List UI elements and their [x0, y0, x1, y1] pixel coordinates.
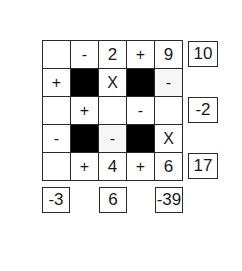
row-result-0: 10 — [188, 41, 218, 67]
operator-r1-c0: + — [43, 69, 71, 97]
number-r0-c4: 9 — [155, 41, 183, 69]
operator-r4-c1: + — [71, 153, 99, 181]
number-r0-c2: 2 — [99, 41, 127, 69]
operator-r1-c2: X — [99, 69, 127, 97]
col-result-2: 6 — [99, 187, 127, 213]
cell-r0-c0[interactable] — [43, 41, 71, 69]
operator-r3-c4: X — [155, 125, 183, 153]
cell-r4-c0[interactable] — [43, 153, 71, 181]
operator-r3-c2: - — [99, 125, 127, 153]
blocked-cell-r3-c3 — [127, 125, 155, 153]
operator-r0-c3: + — [127, 41, 155, 69]
col-result-4: -39 — [155, 187, 183, 213]
number-r4-c4: 6 — [155, 153, 183, 181]
cell-r2-c0[interactable] — [43, 97, 71, 125]
operator-r1-c4: - — [155, 69, 183, 97]
operator-r3-c0: - — [43, 125, 71, 153]
operator-r2-c3: - — [127, 97, 155, 125]
blocked-cell-r3-c1 — [71, 125, 99, 153]
operator-r0-c1: - — [71, 41, 99, 69]
cell-r2-c2[interactable] — [99, 97, 127, 125]
operator-r4-c3: + — [127, 153, 155, 181]
row-result-4: 17 — [188, 153, 218, 179]
operator-r2-c1: + — [71, 97, 99, 125]
puzzle-grid: - 2 + 9 + X - + - - - X + 4 + 6 — [42, 40, 183, 181]
col-result-0: -3 — [42, 187, 70, 213]
cell-r2-c4[interactable] — [155, 97, 183, 125]
number-r4-c2: 4 — [99, 153, 127, 181]
blocked-cell-r1-c1 — [71, 69, 99, 97]
blocked-cell-r1-c3 — [127, 69, 155, 97]
row-result-2: -2 — [188, 97, 218, 123]
